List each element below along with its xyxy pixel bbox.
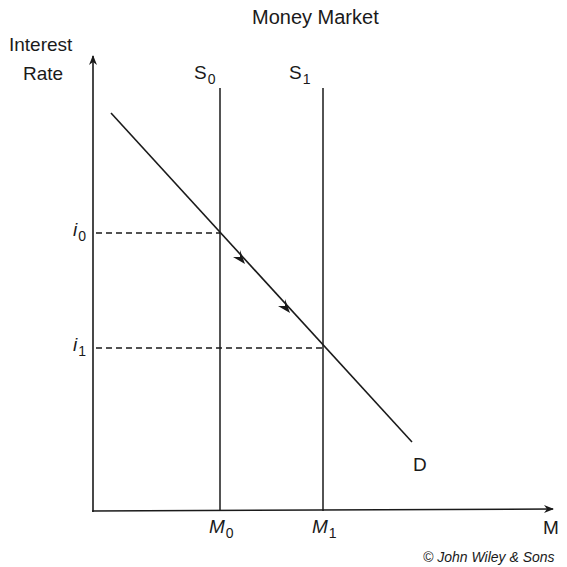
m1-sub: 1 xyxy=(329,525,337,541)
i0-tick-label: i0 xyxy=(73,220,86,239)
copyright-credit: © John Wiley & Sons xyxy=(423,550,555,564)
demand-curve xyxy=(111,113,412,442)
money-market-diagram xyxy=(0,0,567,567)
i0-sub: 0 xyxy=(78,228,86,244)
chart-title: Money Market xyxy=(252,7,379,27)
y-axis-label-line1: Interest xyxy=(9,35,72,54)
m1-text: M xyxy=(312,516,328,537)
s0-label-text: S xyxy=(194,62,207,83)
x-axis-label: M xyxy=(543,518,559,537)
i1-text: i xyxy=(73,334,77,355)
s0-label-sub: 0 xyxy=(208,71,216,87)
s0-label: S0 xyxy=(194,63,215,82)
m1-tick-label: M1 xyxy=(312,517,337,536)
y-axis-label-line2: Rate xyxy=(23,64,63,83)
m0-text: M xyxy=(209,516,225,537)
demand-label: D xyxy=(413,455,427,474)
m0-tick-label: M0 xyxy=(209,517,234,536)
i1-sub: 1 xyxy=(78,343,86,359)
m0-sub: 0 xyxy=(226,525,234,541)
i1-tick-label: i1 xyxy=(73,335,86,354)
s1-label-sub: 1 xyxy=(303,71,311,87)
s1-label: S1 xyxy=(289,63,310,82)
s1-label-text: S xyxy=(289,62,302,83)
i0-text: i xyxy=(73,219,77,240)
